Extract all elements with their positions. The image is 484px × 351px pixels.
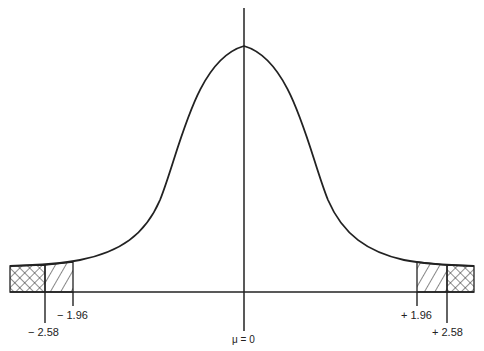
left-inner-tail-region [45, 262, 73, 292]
right-outer-tail-region [447, 265, 474, 292]
label-pos-2-58: + 2.58 [432, 326, 463, 338]
label-pos-1-96: + 1.96 [401, 309, 432, 321]
left-outer-tail-region [10, 265, 45, 292]
mean-label: μ = 0 [232, 334, 255, 345]
bell-curve [10, 46, 474, 266]
right-inner-tail-region [417, 262, 447, 292]
label-neg-1-96: − 1.96 [57, 309, 88, 321]
normal-curve-diagram [0, 0, 484, 351]
label-neg-2-58: − 2.58 [28, 326, 59, 338]
